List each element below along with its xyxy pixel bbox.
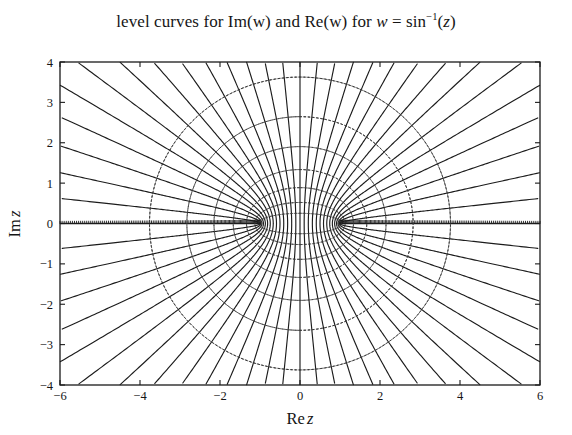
x-tick-label: 2 <box>377 389 383 403</box>
y-tick-label: 3 <box>47 96 53 110</box>
y-tick-label: 2 <box>47 136 53 150</box>
re-level-curves-group <box>60 62 540 384</box>
x-tick-label: 4 <box>457 389 464 403</box>
y-tick-label: −2 <box>40 298 53 312</box>
figure-container: level curves for Im(w) and Re(w) for w =… <box>0 0 572 435</box>
x-tick-label: −2 <box>213 389 226 403</box>
y-axis-label: Imz <box>5 210 24 237</box>
x-axis-label: Rez <box>287 409 314 428</box>
re-level-curve <box>304 63 317 383</box>
axis-name-head: Re <box>287 409 305 428</box>
plot-canvas: −6−4−20246−4−3−2−101234 Rez Imz <box>0 0 572 435</box>
x-tick-label: −4 <box>133 389 147 403</box>
y-tick-label: −1 <box>40 257 53 271</box>
axis-name-head: Im <box>5 219 24 237</box>
y-tick-label: 1 <box>47 177 53 191</box>
axis-name-variable: z <box>5 210 24 218</box>
y-tick-label: 0 <box>47 217 53 231</box>
x-tick-label: 6 <box>537 389 543 403</box>
y-tick-label: −4 <box>40 379 54 393</box>
y-tick-label: −3 <box>40 338 53 352</box>
x-tick-label: 0 <box>297 389 303 403</box>
re-level-curve <box>283 63 296 383</box>
x-tick-label: −6 <box>53 389 66 403</box>
y-tick-label: 4 <box>47 56 54 70</box>
axis-name-variable: z <box>306 409 314 428</box>
